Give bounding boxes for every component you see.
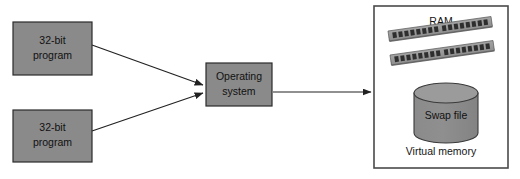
program-bottom-label-line2: program [33,136,72,148]
node-program-bottom: 32-bit program [13,110,92,162]
node-program-top: 32-bit program [13,22,92,75]
virtual-memory-diagram: RAM [0,0,520,179]
virtual-memory-panel: RAM [374,6,508,168]
program-top-label-line2: program [33,49,72,61]
program-top-label-line1: 32-bit [39,34,65,46]
swap-file-label: Swap file [425,109,468,121]
operating-system-label-line2: system [222,85,256,97]
arrow-program-bottom-to-os [92,93,203,131]
diagram-canvas: RAM [0,0,520,179]
program-bottom-label-line1: 32-bit [39,121,65,133]
operating-system-label-line1: Operating [216,70,262,82]
arrow-program-top-to-os [92,45,203,85]
node-operating-system: Operating system [206,63,272,106]
virtual-memory-caption: Virtual memory [406,145,477,157]
cylinder-top [414,83,478,103]
swap-file-cylinder: Swap file [414,83,478,143]
